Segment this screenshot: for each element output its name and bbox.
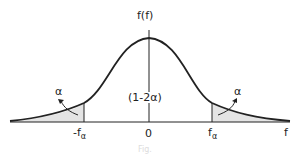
right-critical-sub: α [212, 132, 217, 141]
right-critical-label: fα [208, 127, 217, 139]
center-area-label: (1-2α) [128, 92, 162, 103]
origin-label: 0 [145, 128, 152, 139]
left-critical-main: -f [73, 126, 81, 139]
y-axis-label: f(f) [137, 10, 153, 21]
left-critical-sub: α [81, 132, 86, 141]
left-critical-label: -fα [73, 127, 86, 139]
figure-caption: Fig. [138, 144, 152, 155]
right-tail-alpha: α [234, 86, 241, 97]
left-tail-alpha: α [55, 86, 62, 97]
density-curve [10, 38, 290, 121]
x-axis-label: f [284, 127, 288, 138]
left-arrowhead-icon [58, 99, 64, 104]
